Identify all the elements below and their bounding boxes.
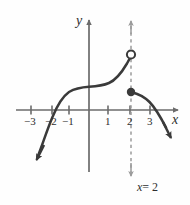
x-axis-label: x [172,112,178,128]
x-tick-label-1: 1 [105,115,111,127]
x-tick-label-neg2: −2 [45,115,57,127]
curve-left-branch [37,57,131,160]
x-tick-label-neg1: −1 [62,115,74,127]
asymptote-label-equation: = 2 [142,180,158,194]
x-tick-label-neg3: −3 [24,115,36,127]
graph-canvas [0,0,190,205]
filled-circle-endpoint [127,88,135,96]
y-axis-label: y [76,13,82,29]
x-tick-label-2: 2 [127,115,133,127]
x-tick-label-3: 3 [147,115,153,127]
asymptote-label: x= 2 [137,180,158,195]
open-circle-endpoint [127,50,135,58]
right-branch-arrow [163,122,171,138]
graph-figure: −3 −2 −1 1 2 3 y x x= 2 [0,0,190,205]
